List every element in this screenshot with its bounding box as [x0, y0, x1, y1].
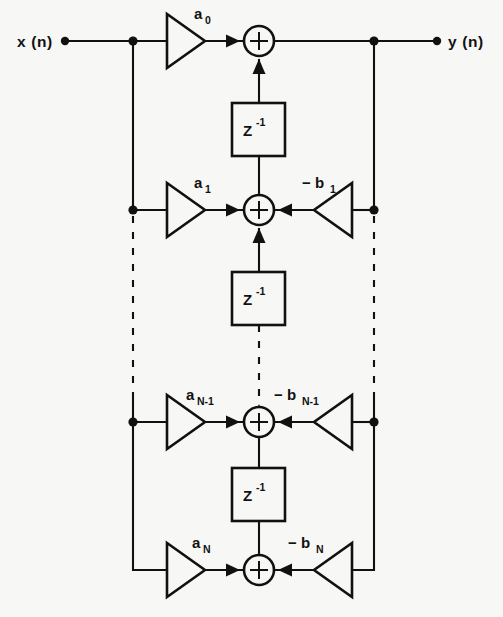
arrowhead-into-adder-1-bottom	[253, 228, 266, 243]
gain-triangle-a0	[167, 14, 205, 68]
arrowhead-into-adder-3-left	[226, 564, 240, 577]
gain-triangle-a1	[167, 183, 205, 237]
delay-box-3	[232, 468, 285, 521]
delay-element-2-group: Z -1	[232, 272, 285, 325]
delay-box-1-exponent: -1	[256, 116, 265, 128]
coefficient-label-a-n: a	[192, 534, 201, 551]
delay-element-1-group: Z -1	[232, 103, 285, 156]
coefficient-label-a0: a	[194, 5, 203, 22]
coefficient-label-b1: − b	[302, 174, 324, 191]
arrowhead-into-adder-0-bottom	[253, 59, 266, 74]
delay-box-2	[232, 272, 285, 325]
arrowhead-into-adder-2-left	[226, 416, 240, 429]
input-label: x (n)	[17, 33, 53, 50]
flowgraph-canvas: Z -1	[0, 0, 503, 617]
coefficient-label-b-n: − b	[288, 534, 310, 551]
coefficient-subscript-b-n: N	[316, 543, 324, 555]
delay-element-3-group: Z -1	[232, 468, 285, 521]
delay-box-1-label: Z	[243, 122, 252, 139]
coefficient-label-b-n-minus-1: − b	[274, 386, 296, 403]
delay-box-3-exponent: -1	[256, 481, 265, 493]
coefficient-subscript-a1: 1	[205, 183, 211, 195]
arrowhead-into-adder-3-right	[278, 564, 292, 577]
gain-triangle-b-n-minus-1	[314, 395, 352, 449]
coefficient-subscript-a-n-minus-1: N-1	[197, 395, 214, 407]
arrowhead-into-adder-1-right	[278, 204, 292, 217]
coefficient-subscript-b-n-minus-1: N-1	[302, 395, 319, 407]
coefficient-label-a1: a	[194, 174, 203, 191]
delay-box-2-label: Z	[243, 291, 252, 308]
coefficient-subscript-a-n: N	[203, 543, 211, 555]
row-n-minus-1-group	[128, 395, 378, 468]
delay-box-3-label: Z	[243, 487, 252, 504]
coefficient-label-a-n-minus-1: a	[186, 386, 195, 403]
gain-triangle-a-n	[167, 543, 205, 597]
arrowhead-into-adder-2-right	[278, 416, 292, 429]
left-rail-corner-to-a-n	[133, 422, 167, 570]
arrowhead-into-adder-1-left	[226, 204, 240, 217]
signal-flow-diagram: Z -1	[0, 0, 503, 617]
delay-box-2-exponent: -1	[256, 285, 265, 297]
arrowhead-into-adder-0-left	[226, 35, 240, 48]
row-0-group	[61, 14, 441, 103]
coefficient-subscript-a0: 0	[205, 14, 211, 26]
output-label: y (n)	[448, 33, 484, 50]
delay-box-1	[232, 103, 285, 156]
output-terminal-dot	[433, 37, 441, 45]
right-rail-corner-to-b-n	[352, 422, 374, 570]
coefficient-subscript-b1: 1	[330, 183, 336, 195]
